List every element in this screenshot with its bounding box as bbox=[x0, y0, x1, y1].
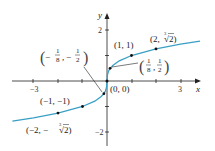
x-tick-label-neg3: −3 bbox=[30, 85, 39, 94]
label-neg2-neg-cbrt2: (−2, − √2) 3 bbox=[26, 122, 71, 135]
label-1-1: (1, 1) bbox=[114, 40, 134, 50]
svg-text:(−2, −: (−2, − bbox=[26, 125, 48, 135]
point-1 bbox=[130, 54, 133, 57]
y-tick-label-neg2: −2 bbox=[95, 128, 104, 137]
y-tick-label-2: 2 bbox=[98, 26, 102, 35]
y-axis-label: y bbox=[97, 10, 102, 20]
svg-text:): ) bbox=[83, 49, 88, 67]
label-neg1-neg1: (−1, −1) bbox=[40, 96, 70, 106]
point-neg-eighth bbox=[103, 92, 106, 95]
svg-text:−: − bbox=[45, 52, 50, 62]
svg-text:(: ( bbox=[139, 58, 144, 76]
svg-text:2: 2 bbox=[158, 66, 162, 74]
svg-text:1: 1 bbox=[147, 57, 151, 65]
svg-text:): ) bbox=[164, 58, 169, 76]
x-axis-label: x bbox=[195, 84, 200, 94]
point-origin bbox=[106, 80, 109, 83]
x-tick-label-3: 3 bbox=[178, 85, 182, 94]
svg-text:8: 8 bbox=[56, 56, 60, 64]
svg-text:,: , bbox=[62, 52, 64, 62]
svg-text:1: 1 bbox=[158, 57, 162, 65]
svg-text:8: 8 bbox=[147, 66, 151, 74]
point-neg2 bbox=[57, 112, 60, 115]
svg-text:,: , bbox=[153, 62, 155, 72]
leader-neg-eighth bbox=[84, 67, 102, 92]
cube-root-graph: −3 3 2 −2 x y (0, 0) (1, 1) (−1, −1) (2,… bbox=[0, 0, 215, 151]
label-eighth-half: ( 1 8 , 1 2 ) bbox=[139, 57, 169, 76]
label-2-cbrt2: (2, √2) 3 bbox=[150, 31, 176, 44]
label-origin: (0, 0) bbox=[110, 84, 130, 94]
svg-text:1: 1 bbox=[76, 47, 80, 55]
svg-text:1: 1 bbox=[56, 47, 60, 55]
svg-text:2: 2 bbox=[76, 56, 80, 64]
point-eighth bbox=[109, 67, 112, 70]
point-neg1 bbox=[81, 105, 84, 108]
point-2 bbox=[155, 48, 158, 51]
svg-text:−: − bbox=[66, 52, 71, 62]
label-neg-eighth-neg-half: ( − 1 8 , − 1 2 ) bbox=[40, 47, 88, 67]
svg-text:(2,: (2, bbox=[150, 34, 160, 44]
